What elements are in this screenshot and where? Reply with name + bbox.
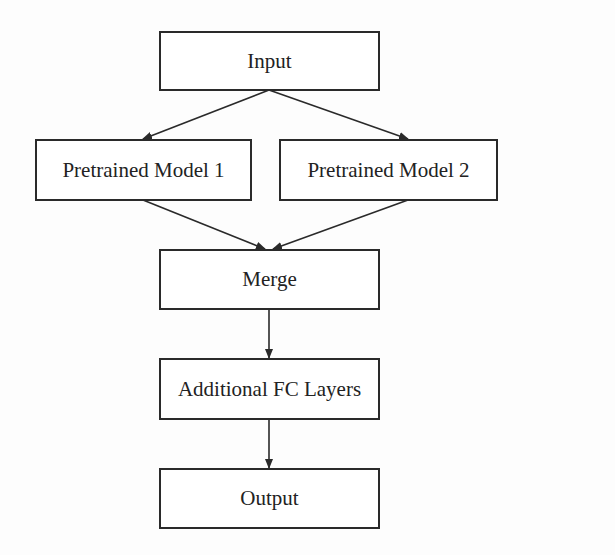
node-pretrained-model-1: Pretrained Model 1 xyxy=(35,139,252,201)
node-fc-label: Additional FC Layers xyxy=(178,377,361,402)
node-output-label: Output xyxy=(240,486,298,511)
node-pm2-label: Pretrained Model 2 xyxy=(307,158,469,183)
node-pm1-label: Pretrained Model 1 xyxy=(62,158,224,183)
flowchart-canvas: Input Pretrained Model 1 Pretrained Mode… xyxy=(0,0,615,555)
node-merge: Merge xyxy=(159,249,380,310)
node-merge-label: Merge xyxy=(242,267,296,292)
edge-input-to-pm2 xyxy=(269,90,408,139)
node-input: Input xyxy=(159,31,380,91)
node-additional-fc-layers: Additional FC Layers xyxy=(159,358,380,420)
node-pretrained-model-2: Pretrained Model 2 xyxy=(279,139,498,201)
node-output: Output xyxy=(159,468,380,529)
edge-input-to-pm1 xyxy=(143,90,269,139)
node-input-label: Input xyxy=(247,49,291,74)
edge-pm2-to-merge xyxy=(273,200,408,249)
edge-pm1-to-merge xyxy=(143,200,265,249)
